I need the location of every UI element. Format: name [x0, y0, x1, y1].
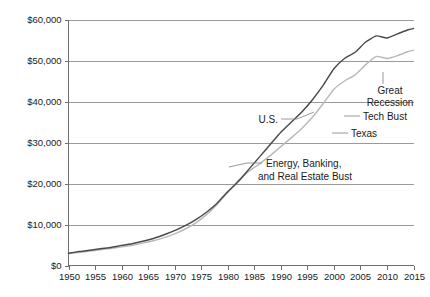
x-axis-tick-label: 1955 [85, 271, 106, 282]
chart-background [0, 0, 430, 297]
y-axis-tick-label: $20,000 [27, 178, 61, 189]
x-axis-tick-label: 2010 [377, 271, 398, 282]
energy-bust-annotation-label-line1: Energy, Banking, [266, 158, 341, 169]
x-axis-tick-label: 1990 [271, 271, 292, 282]
income-line-chart: $0$10,000$20,000$30,000$40,000$50,000$60… [0, 0, 430, 297]
x-axis-tick-label: 1995 [297, 271, 318, 282]
x-axis-tick-label: 1970 [165, 271, 186, 282]
us-annotation-label: U.S. [259, 114, 278, 125]
x-axis-tick-label: 1950 [59, 271, 80, 282]
tech-bust-annotation-label: Tech Bust [363, 111, 407, 122]
x-axis-tick-label: 1985 [244, 271, 265, 282]
y-axis-tick-label: $0 [51, 260, 62, 271]
texas-annotation-label: Texas [351, 128, 377, 139]
x-axis-tick-label: 1980 [218, 271, 239, 282]
y-axis-tick-label: $40,000 [27, 96, 61, 107]
chart-container: $0$10,000$20,000$30,000$40,000$50,000$60… [0, 0, 430, 297]
x-axis-tick-label: 2015 [404, 271, 425, 282]
x-axis-tick-label: 1975 [191, 271, 212, 282]
x-axis-tick-label: 2000 [324, 271, 345, 282]
great-recession-annotation-label-line1: Great [377, 85, 402, 96]
great-recession-annotation-label-line2: Recession [367, 97, 414, 108]
x-axis-tick-label: 1960 [112, 271, 133, 282]
y-axis-tick-label: $60,000 [27, 14, 61, 25]
x-axis-tick-label: 2005 [350, 271, 371, 282]
y-axis-tick-label: $30,000 [27, 137, 61, 148]
energy-bust-annotation-label-line2: and Real Estate Bust [258, 171, 352, 182]
y-axis-tick-label: $10,000 [27, 219, 61, 230]
y-axis-tick-label: $50,000 [27, 55, 61, 66]
x-axis-tick-label: 1965 [138, 271, 159, 282]
